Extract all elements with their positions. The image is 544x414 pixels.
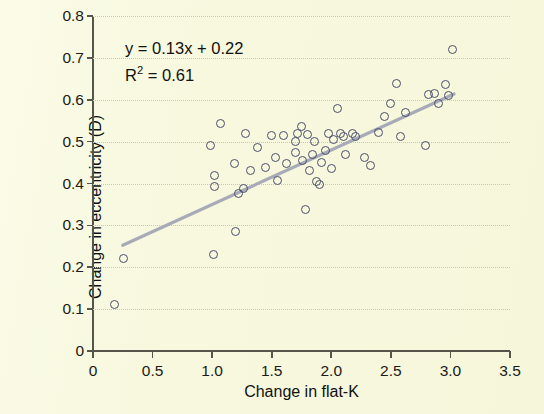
y-tick-label: 0.3 <box>62 216 84 234</box>
y-tick-label: 0.5 <box>62 133 84 151</box>
data-point <box>291 148 300 157</box>
data-point <box>308 150 317 159</box>
y-tick-label: 0.7 <box>62 49 84 67</box>
data-point <box>401 108 410 117</box>
x-tick-label: 1.5 <box>261 362 283 380</box>
data-point <box>430 89 439 98</box>
x-tick-label: 2.0 <box>321 362 343 380</box>
data-point <box>282 159 291 168</box>
x-tick-mark <box>509 351 511 358</box>
y-tick-label: 0.2 <box>62 258 84 276</box>
x-tick-label: 1.0 <box>201 362 223 380</box>
x-tick-label: 0 <box>89 362 98 380</box>
data-point <box>273 176 282 185</box>
data-point <box>301 205 310 214</box>
data-point <box>351 132 360 141</box>
data-point <box>216 119 225 128</box>
data-point <box>209 250 218 259</box>
x-tick-mark <box>92 351 94 358</box>
r-squared-symbol: R <box>125 65 137 83</box>
data-point <box>315 180 324 189</box>
x-tick-label: 0.5 <box>142 362 164 380</box>
data-point <box>279 131 288 140</box>
x-tick-label: 3.0 <box>440 362 462 380</box>
x-tick-label: 3.5 <box>499 362 521 380</box>
x-tick-mark <box>271 351 273 358</box>
x-tick-mark <box>152 351 154 358</box>
data-point <box>305 166 314 175</box>
data-point <box>396 132 405 141</box>
data-point <box>386 99 395 108</box>
r-squared: R2 = 0.61 <box>125 62 243 88</box>
data-point <box>241 129 250 138</box>
data-point <box>119 254 128 263</box>
regression-annotation: y = 0.13x + 0.22 R2 = 0.61 <box>125 36 243 88</box>
y-tick-label: 0.8 <box>62 7 84 25</box>
x-tick-mark <box>390 351 392 358</box>
data-point <box>341 150 350 159</box>
y-tick-label: 0.1 <box>62 300 84 318</box>
x-tick-mark <box>450 351 452 358</box>
data-point <box>339 132 348 141</box>
y-tick-label: 0.6 <box>62 91 84 109</box>
x-axis-title: Change in flat-K <box>93 383 510 401</box>
data-point <box>444 91 453 100</box>
data-point <box>253 143 262 152</box>
y-tick-label: 0.4 <box>62 175 84 193</box>
data-point <box>366 161 375 170</box>
r-squared-value: = 0.61 <box>143 65 194 83</box>
data-point <box>110 300 119 309</box>
regression-equation: y = 0.13x + 0.22 <box>125 36 243 62</box>
x-tick-mark <box>330 351 332 358</box>
scatter-plot-figure: Change in eccentricity (D) Change in fla… <box>0 0 544 414</box>
data-point <box>271 153 280 162</box>
x-tick-label: 2.5 <box>380 362 402 380</box>
y-tick-label: 0 <box>75 342 84 360</box>
data-point <box>210 171 219 180</box>
data-point <box>246 166 255 175</box>
data-point <box>267 131 276 140</box>
data-point <box>327 164 336 173</box>
x-tick-mark <box>211 351 213 358</box>
